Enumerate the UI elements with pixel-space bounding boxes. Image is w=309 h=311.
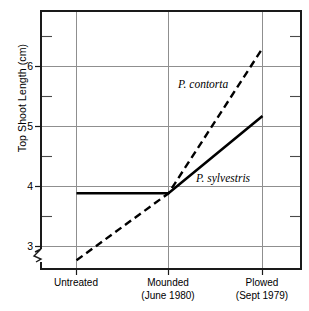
- y-tick-label-3: 3: [17, 240, 33, 252]
- x-category-label-plowed: Plowed (Sept 1979): [207, 277, 309, 302]
- x-ticks: [77, 270, 263, 275]
- x-category-mounded-line1: Mounded: [147, 277, 189, 288]
- y-axis-title: Top Shoot Length (cm): [12, 18, 32, 178]
- y-axis-break-symbol: [34, 249, 41, 262]
- x-category-plowed-line2: (Sept 1979): [207, 290, 309, 303]
- series-annotation-p-contorta: P. contorta: [178, 78, 228, 90]
- chart-plot-svg: [0, 0, 309, 311]
- chart-figure: Top Shoot Length (cm) 3 4 5 6 Untreated …: [0, 0, 309, 311]
- y-tick-label-4: 4: [17, 180, 33, 192]
- x-category-plowed-line1: Plowed: [246, 277, 279, 288]
- series-annotation-p-sylvestris: P. sylvestris: [196, 172, 250, 184]
- y-tick-label-6: 6: [17, 60, 33, 72]
- y-tick-label-5: 5: [17, 120, 33, 132]
- y-major-ticks: [35, 67, 40, 247]
- x-category-untreated-line1: Untreated: [54, 277, 98, 288]
